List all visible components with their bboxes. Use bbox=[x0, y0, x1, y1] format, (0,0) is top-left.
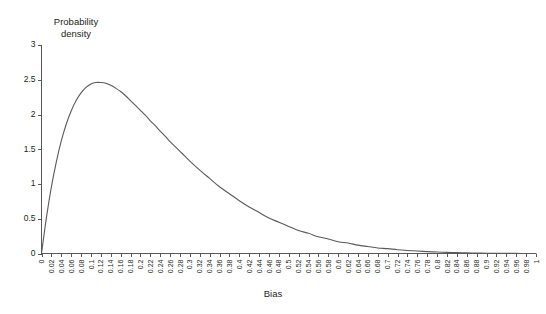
x-axis-title: Bias bbox=[0, 288, 546, 299]
x-tick-label: 0.08 bbox=[78, 259, 85, 273]
chart-plot-area: 00.511.522.53 00.020.040.060.080.10.120.… bbox=[0, 0, 546, 314]
x-tick-label: 0.54 bbox=[305, 259, 312, 273]
x-tick-label: 0.52 bbox=[295, 259, 302, 273]
x-tick-label: 0.02 bbox=[48, 259, 55, 273]
x-tick-label: 0.84 bbox=[453, 259, 460, 273]
x-tick-label: 0.6 bbox=[335, 259, 342, 269]
x-tick-label: 0.82 bbox=[444, 259, 451, 273]
x-tick-label: 0.78 bbox=[424, 259, 431, 273]
x-tick-label: 0.38 bbox=[226, 259, 233, 273]
x-tick-label: 0.62 bbox=[345, 259, 352, 273]
y-tick-label: 2 bbox=[31, 109, 36, 119]
x-tick-label: 0.64 bbox=[355, 259, 362, 273]
x-tick-label: 0.46 bbox=[266, 259, 273, 273]
x-tick-label: 0.44 bbox=[256, 259, 263, 273]
y-tick-label: 0.5 bbox=[24, 213, 36, 223]
x-tick-label: 0.32 bbox=[196, 259, 203, 273]
x-tick-label: 0.98 bbox=[523, 259, 530, 273]
x-tick-label: 0 bbox=[38, 259, 45, 263]
x-tick-label: 0.28 bbox=[177, 259, 184, 273]
probability-density-chart: Probability density 00.511.522.53 00.020… bbox=[0, 0, 546, 314]
x-tick-label: 0.86 bbox=[463, 259, 470, 273]
x-tick-label: 0.16 bbox=[117, 259, 124, 273]
x-tick-label: 0.7 bbox=[384, 259, 391, 269]
y-tick-label: 0 bbox=[31, 248, 36, 258]
x-tick-label: 0.48 bbox=[275, 259, 282, 273]
x-tick-label: 0.72 bbox=[394, 259, 401, 273]
x-tick-label: 1 bbox=[533, 259, 540, 263]
y-axis-ticks: 00.511.522.53 bbox=[24, 39, 42, 258]
x-tick-label: 0.58 bbox=[325, 259, 332, 273]
x-tick-label: 0.9 bbox=[483, 259, 490, 269]
x-tick-label: 0.5 bbox=[285, 259, 292, 269]
y-tick-label: 1.5 bbox=[24, 144, 36, 154]
x-tick-label: 0.76 bbox=[414, 259, 421, 273]
x-tick-label: 0.92 bbox=[493, 259, 500, 273]
x-tick-label: 0.04 bbox=[58, 259, 65, 273]
x-tick-label: 0.24 bbox=[157, 259, 164, 273]
density-curve-line bbox=[42, 82, 537, 253]
x-tick-label: 0.3 bbox=[186, 259, 193, 269]
x-tick-label: 0.36 bbox=[216, 259, 223, 273]
x-tick-label: 0.12 bbox=[97, 259, 104, 273]
x-tick-label: 0.94 bbox=[503, 259, 510, 273]
y-tick-label: 2.5 bbox=[24, 74, 36, 84]
x-tick-label: 0.66 bbox=[364, 259, 371, 273]
x-tick-label: 0.8 bbox=[434, 259, 441, 269]
x-tick-label: 0.88 bbox=[473, 259, 480, 273]
x-tick-label: 0.26 bbox=[167, 259, 174, 273]
x-tick-label: 0.42 bbox=[246, 259, 253, 273]
x-tick-label: 0.22 bbox=[147, 259, 154, 273]
x-axis-ticks: 00.020.040.060.080.10.120.140.160.180.20… bbox=[38, 254, 539, 274]
x-tick-label: 0.2 bbox=[137, 259, 144, 269]
x-tick-label: 0.1 bbox=[88, 259, 95, 269]
x-tick-label: 0.4 bbox=[236, 259, 243, 269]
x-tick-label: 0.14 bbox=[107, 259, 114, 273]
x-tick-label: 0.96 bbox=[513, 259, 520, 273]
x-tick-label: 0.68 bbox=[374, 259, 381, 273]
y-tick-label: 1 bbox=[31, 178, 36, 188]
x-tick-label: 0.74 bbox=[404, 259, 411, 273]
x-tick-label: 0.34 bbox=[206, 259, 213, 273]
y-tick-label: 3 bbox=[31, 39, 36, 49]
x-tick-label: 0.56 bbox=[315, 259, 322, 273]
x-tick-label: 0.06 bbox=[68, 259, 75, 273]
x-tick-label: 0.18 bbox=[127, 259, 134, 273]
